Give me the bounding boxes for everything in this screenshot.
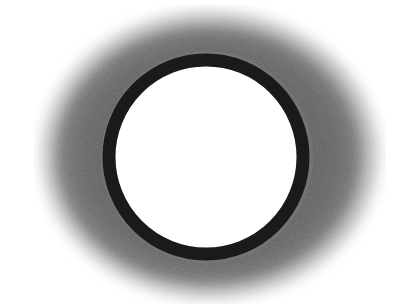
ring-image — [0, 0, 404, 304]
image-canvas — [0, 0, 404, 304]
